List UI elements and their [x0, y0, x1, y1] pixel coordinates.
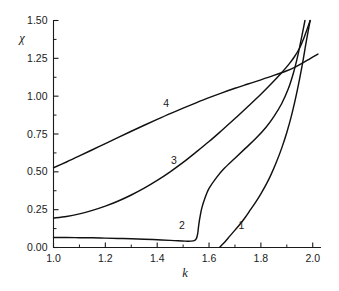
x-tick-label: 1.0: [46, 252, 61, 264]
y-tick-label: 0.50: [27, 165, 48, 177]
axis-spines: [54, 21, 321, 248]
chart-figure: 1.01.21.41.61.82.00.000.250.500.751.001.…: [0, 0, 339, 291]
curve-label-3: 3: [171, 154, 177, 166]
curve-label-4: 4: [163, 97, 169, 109]
chart-plot-area: 1.01.21.41.61.82.00.000.250.500.751.001.…: [0, 0, 339, 291]
x-tick-label: 1.8: [254, 252, 269, 264]
y-tick-label: 0.25: [27, 203, 48, 215]
x-tick-label: 1.4: [150, 252, 165, 264]
y-tick-label: 1.25: [27, 52, 48, 64]
x-axis-title: k: [182, 266, 188, 280]
curve-label-2: 2: [179, 219, 185, 231]
x-tick-label: 1.2: [98, 252, 113, 264]
y-axis-title: χ: [18, 31, 25, 45]
data-curve-2: [54, 21, 305, 242]
y-tick-label: 0.00: [27, 241, 48, 253]
y-tick-label: 1.50: [27, 14, 48, 26]
x-tick-label: 1.6: [202, 252, 217, 264]
y-tick-label: 1.00: [27, 90, 48, 102]
x-tick-label: 2.0: [305, 252, 320, 264]
curve-label-1: 1: [239, 219, 245, 231]
y-tick-label: 0.75: [27, 128, 48, 140]
